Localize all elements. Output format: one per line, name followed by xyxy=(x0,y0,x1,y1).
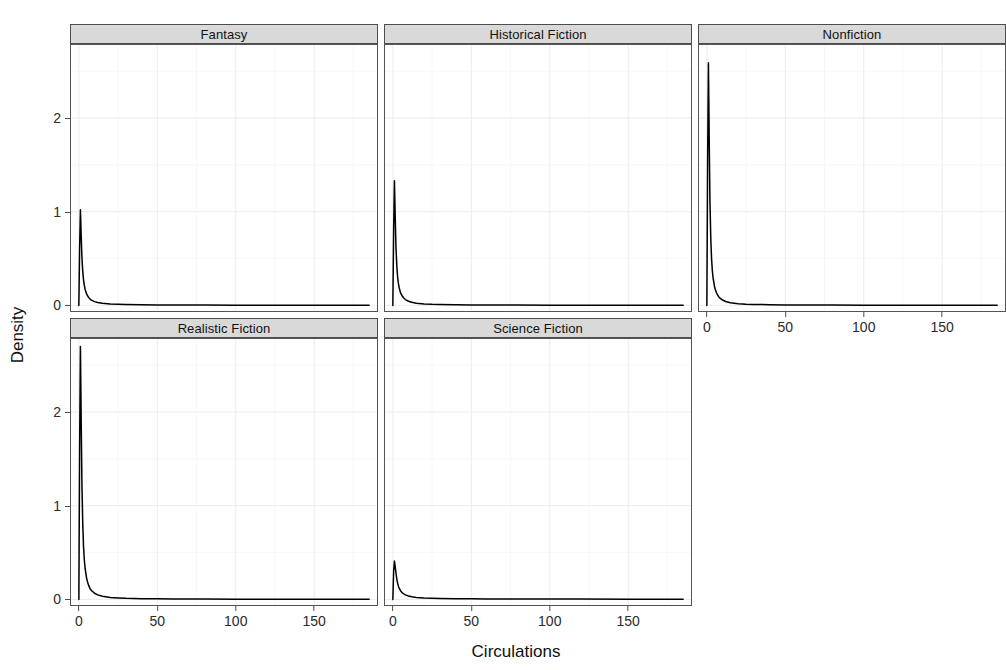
y-tick-mark xyxy=(65,506,70,507)
x-tick-label: 0 xyxy=(75,606,83,629)
facet-strip-label: Science Fiction xyxy=(384,318,692,338)
gridlines xyxy=(71,339,377,605)
x-tick-text: 0 xyxy=(389,613,397,629)
facet-panel-science-fiction: Science Fiction xyxy=(384,318,692,606)
x-tick-text: 0 xyxy=(75,613,83,629)
x-tick-label: 100 xyxy=(852,312,875,335)
facet-strip-label: Fantasy xyxy=(70,24,378,44)
x-tick-mark xyxy=(471,606,472,611)
plot-area xyxy=(698,44,1006,312)
x-tick-mark xyxy=(863,312,864,317)
x-tick-text: 100 xyxy=(538,613,561,629)
x-tick-label: 100 xyxy=(224,606,247,629)
gridlines xyxy=(71,45,377,311)
y-tick-mark xyxy=(65,212,70,213)
facet-panel-realistic-fiction: Realistic Fiction xyxy=(70,318,378,606)
x-tick-mark xyxy=(549,606,550,611)
x-tick-mark xyxy=(157,606,158,611)
x-tick-text: 150 xyxy=(303,613,326,629)
x-axis-title: Circulations xyxy=(0,642,1002,662)
y-tick-mark xyxy=(65,305,70,306)
x-axis-title-text: Circulations xyxy=(472,642,561,661)
density-curve xyxy=(393,181,683,306)
x-tick-mark xyxy=(78,606,79,611)
x-axis-tick-labels: 050100150 xyxy=(70,606,378,632)
x-tick-label: 50 xyxy=(778,312,794,335)
y-tick-text: 2 xyxy=(53,110,61,126)
y-tick-label: 1 xyxy=(53,204,70,220)
x-tick-text: 150 xyxy=(931,319,954,335)
y-tick-text: 2 xyxy=(53,404,61,420)
y-tick-text: 1 xyxy=(53,204,61,220)
density-curve xyxy=(79,210,369,306)
x-tick-mark xyxy=(942,312,943,317)
y-axis-title-text: Density xyxy=(8,307,28,364)
x-tick-mark xyxy=(392,606,393,611)
x-tick-mark xyxy=(628,606,629,611)
plot-area xyxy=(70,44,378,312)
facet-panel-fantasy: Fantasy xyxy=(70,24,378,312)
facet-strip-label: Nonfiction xyxy=(698,24,1006,44)
x-tick-label: 50 xyxy=(464,606,480,629)
gridlines xyxy=(385,45,691,311)
x-tick-label: 150 xyxy=(617,606,640,629)
x-axis-tick-labels: 050100150 xyxy=(698,312,1006,338)
x-tick-mark xyxy=(706,312,707,317)
x-tick-text: 50 xyxy=(778,319,794,335)
y-tick-label: 1 xyxy=(53,498,70,514)
facet-strip-label: Realistic Fiction xyxy=(70,318,378,338)
x-tick-mark xyxy=(314,606,315,611)
density-curve xyxy=(79,346,369,599)
x-tick-label: 100 xyxy=(538,606,561,629)
y-axis-tick-labels: 012 xyxy=(30,338,70,606)
x-tick-text: 100 xyxy=(852,319,875,335)
facet-panel-nonfiction: Nonfiction xyxy=(698,24,1006,312)
x-tick-text: 50 xyxy=(464,613,480,629)
x-axis-tick-labels: 050100150 xyxy=(384,606,692,632)
y-tick-text: 1 xyxy=(53,498,61,514)
gridlines xyxy=(385,339,691,605)
x-tick-label: 0 xyxy=(389,606,397,629)
plot-area xyxy=(70,338,378,606)
y-tick-text: 0 xyxy=(53,591,61,607)
plot-area xyxy=(384,338,692,606)
x-tick-mark xyxy=(785,312,786,317)
y-tick-mark xyxy=(65,599,70,600)
y-tick-mark xyxy=(65,118,70,119)
facet-strip-label: Historical Fiction xyxy=(384,24,692,44)
y-tick-label: 2 xyxy=(53,110,70,126)
x-tick-text: 100 xyxy=(224,613,247,629)
x-tick-mark xyxy=(235,606,236,611)
density-curve xyxy=(707,63,997,306)
y-axis-tick-labels: 012 xyxy=(30,44,70,312)
density-curve xyxy=(393,561,683,599)
y-axis-title: Density xyxy=(4,0,32,670)
x-tick-label: 0 xyxy=(703,312,711,335)
y-tick-mark xyxy=(65,412,70,413)
x-tick-text: 150 xyxy=(617,613,640,629)
plot-area xyxy=(384,44,692,312)
gridlines xyxy=(699,45,1005,311)
x-tick-label: 50 xyxy=(150,606,166,629)
y-tick-text: 0 xyxy=(53,297,61,313)
x-tick-text: 0 xyxy=(703,319,711,335)
x-tick-text: 50 xyxy=(150,613,166,629)
y-tick-label: 0 xyxy=(53,297,70,313)
facet-panel-historical-fiction: Historical Fiction xyxy=(384,24,692,312)
y-tick-label: 2 xyxy=(53,404,70,420)
x-tick-label: 150 xyxy=(931,312,954,335)
y-tick-label: 0 xyxy=(53,591,70,607)
x-tick-label: 150 xyxy=(303,606,326,629)
